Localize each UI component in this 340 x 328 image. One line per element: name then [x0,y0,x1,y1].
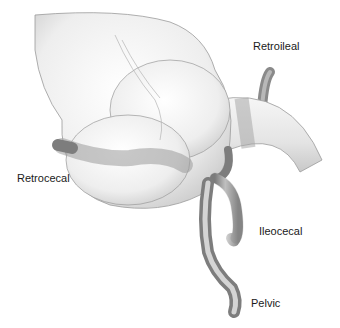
label-retrocecal: Retrocecal [17,172,70,184]
label-pelvic: Pelvic [251,297,280,309]
label-retroileal: Retroileal [253,40,299,52]
label-ileocecal: Ileocecal [259,225,302,237]
appendix-positions-illustration: Retroileal Retrocecal Ileocecal Pelvic [0,0,340,328]
